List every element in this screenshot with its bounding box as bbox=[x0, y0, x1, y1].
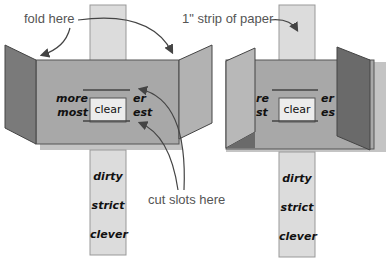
strip-word: strict bbox=[279, 193, 315, 222]
strip-word: strict bbox=[90, 191, 126, 220]
strip-word: dirty bbox=[279, 164, 315, 193]
prefix-partial: re bbox=[256, 92, 270, 106]
prefix-most: most bbox=[52, 106, 88, 120]
window-word: clear bbox=[90, 103, 126, 116]
left-prefixes: more most bbox=[52, 92, 88, 120]
suffix: er bbox=[321, 92, 335, 106]
suffix: es bbox=[321, 106, 335, 120]
foldable-diagram bbox=[0, 0, 389, 266]
right-flap bbox=[179, 45, 212, 139]
prefix-more: more bbox=[52, 92, 88, 106]
left-strip-words: dirty strict clever bbox=[90, 162, 126, 249]
right-flap bbox=[337, 47, 370, 150]
label-strip-of-paper: 1" strip of paper bbox=[182, 11, 273, 26]
right-suffixes: er es bbox=[321, 92, 335, 120]
strip-word: dirty bbox=[90, 162, 126, 191]
suffix-er: er bbox=[133, 92, 152, 106]
left-flap bbox=[226, 48, 255, 148]
label-fold-here: fold here bbox=[24, 11, 75, 26]
strip-word: clever bbox=[279, 222, 315, 251]
left-flap bbox=[5, 45, 36, 144]
fold-arrow-left bbox=[42, 28, 70, 55]
label-cut-slots: cut slots here bbox=[148, 192, 225, 207]
strip-word: clever bbox=[90, 220, 126, 249]
prefix-partial: st bbox=[256, 106, 270, 120]
left-suffixes: er est bbox=[133, 92, 152, 120]
right-prefixes: re st bbox=[256, 92, 270, 120]
window-word: clear bbox=[279, 103, 315, 116]
suffix-est: est bbox=[133, 106, 152, 120]
right-strip-words: dirty strict clever bbox=[279, 164, 315, 251]
